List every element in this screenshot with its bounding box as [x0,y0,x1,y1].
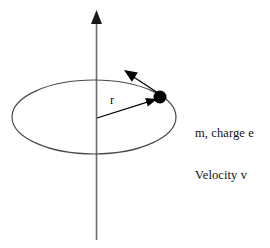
particle-mass-charge-label: m, charge e [195,126,254,140]
velocity-vector-arrow-icon [124,70,138,82]
vertical-axis-arrow-icon [91,10,102,24]
particle-annotation: m, charge e Velocity v [195,98,254,210]
physics-diagram-figure: r m, charge e Velocity v [0,0,270,248]
orbit-ellipse [12,80,176,154]
particle-dot [154,91,167,104]
radius-vector-line [97,101,151,118]
particle-velocity-label: Velocity v [195,168,254,182]
radius-label: r [110,94,114,107]
